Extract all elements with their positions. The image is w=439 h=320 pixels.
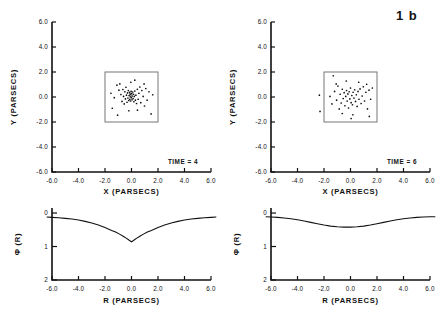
potential-panel-time-6: -6.0-4.0-2.00.02.04.06.0012R (PARSECS)Φ … [219,196,439,320]
svg-text:-2.0: -2.0 [36,118,48,125]
svg-text:-6.0: -6.0 [265,285,277,292]
data-point [131,97,133,99]
data-point [122,89,124,91]
data-point [129,98,131,100]
scatter-points [319,75,374,119]
x-axis-label: R (PARSECS) [322,296,379,305]
data-point [338,108,340,110]
data-point [144,105,146,107]
svg-text:0.0: 0.0 [258,93,268,100]
svg-text:-4.0: -4.0 [292,177,304,184]
scatter-panel-time-4: -6.0-4.0-2.00.02.04.06.0-6.0-4.0-2.00.02… [0,0,220,200]
data-point [340,102,342,104]
potential-curve [266,217,436,227]
data-point [350,87,352,89]
potential-chart-time-6: -6.0-4.0-2.00.02.04.06.0012R (PARSECS)Φ … [219,196,439,320]
data-point [334,91,336,93]
y-axis-label: Φ (R) [232,233,241,255]
data-point [133,93,135,95]
data-point [148,91,150,93]
data-point [344,105,346,107]
y-axis-label: Φ (R) [13,233,22,255]
x-axis-label: X (PARSECS) [103,187,159,196]
data-point [346,90,348,92]
svg-text:6.0: 6.0 [425,177,435,184]
data-point [365,91,367,93]
data-point [152,94,154,96]
scatter-chart-time-4: -6.0-4.0-2.00.02.04.06.0-6.0-4.0-2.00.02… [0,0,220,200]
svg-text:6.0: 6.0 [425,285,435,292]
scatter-points [110,79,153,116]
data-point [128,110,130,112]
data-point [367,108,369,110]
inset-box [324,72,377,122]
data-point [331,103,333,105]
svg-text:-2.0: -2.0 [99,285,111,292]
data-point [111,107,113,109]
svg-text:4.0: 4.0 [180,285,190,292]
data-point [116,84,118,86]
data-point [345,96,347,98]
data-point [354,89,356,91]
svg-text:-2.0: -2.0 [99,177,111,184]
svg-text:2.0: 2.0 [372,285,382,292]
svg-text:0: 0 [263,209,267,216]
data-point [348,91,350,93]
svg-text:0.0: 0.0 [127,285,137,292]
data-point [364,100,366,102]
data-point [134,79,136,81]
svg-text:-6.0: -6.0 [36,168,48,175]
x-axis-label: R (PARSECS) [103,296,160,305]
svg-text:6.0: 6.0 [206,177,216,184]
data-point [368,89,370,91]
data-point [140,102,142,104]
data-point [347,93,349,95]
data-point [137,109,139,111]
data-point [370,98,372,100]
svg-text:6.0: 6.0 [206,285,216,292]
data-point [339,93,341,95]
data-point [137,98,139,100]
svg-text:-4.0: -4.0 [36,143,48,150]
svg-text:4.0: 4.0 [180,177,190,184]
svg-text:2.0: 2.0 [153,285,163,292]
data-point [136,103,138,105]
potential-chart-time-4: -6.0-4.0-2.00.02.04.06.0012R (PARSECS)Φ … [0,196,220,320]
y-axis-label: Y (PARSECS) [228,69,237,125]
data-point [356,106,358,108]
data-point [353,97,355,99]
data-point [110,92,112,94]
data-point [329,96,331,98]
data-point [132,98,134,100]
axis-lines [52,208,211,280]
data-point [127,90,129,92]
data-point [351,95,353,97]
data-point [142,96,144,98]
data-point [357,91,359,93]
data-point [132,91,134,93]
svg-text:-6.0: -6.0 [46,177,58,184]
data-point [141,90,143,92]
svg-text:-2.0: -2.0 [255,118,267,125]
data-point [127,92,129,94]
data-point [372,87,374,89]
scatter-chart-time-6: -6.0-4.0-2.00.02.04.06.0-6.0-4.0-2.00.02… [219,0,439,200]
data-point [131,93,133,95]
data-point [363,86,365,88]
svg-text:4.0: 4.0 [399,285,409,292]
data-point [124,91,126,93]
data-point [135,94,137,96]
svg-text:2.0: 2.0 [258,68,268,75]
scatter-panel-time-6: -6.0-4.0-2.00.02.04.06.0-6.0-4.0-2.00.02… [219,0,439,200]
svg-text:0.0: 0.0 [127,177,137,184]
data-point [120,94,122,96]
data-point [336,99,338,101]
data-point [130,91,132,93]
data-point [337,85,339,87]
data-point [350,118,352,120]
data-point [133,96,135,98]
data-point [358,98,360,100]
data-point [335,83,337,85]
svg-text:-4.0: -4.0 [292,285,304,292]
svg-text:1: 1 [263,243,267,250]
